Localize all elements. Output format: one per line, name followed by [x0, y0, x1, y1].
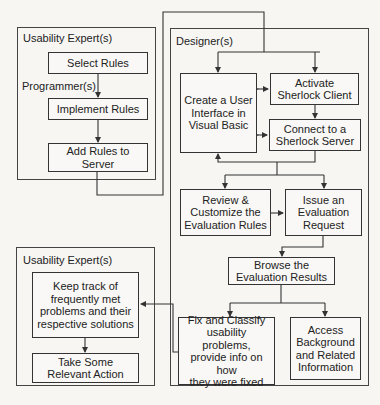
keep-track-box: Keep track of frequently met problems an… [32, 272, 139, 338]
browse-results-box: Browse the Evaluation Results [228, 257, 335, 285]
access-background-box: Access Background and Related Informatio… [290, 317, 361, 380]
add-rules-box: Add Rules to Server [48, 143, 148, 172]
implement-rules-box: Implement Rules [48, 98, 148, 120]
connect-server-box: Connect to a Sherlock Server [269, 119, 361, 151]
create-ui-box: Create a User Interface in Visual Basic [180, 73, 257, 153]
activate-client-box: Activate Sherlock Client [270, 73, 359, 105]
select-rules-box: Select Rules [48, 52, 148, 74]
issue-request-box: Issue an Evaluation Request [285, 189, 362, 236]
usability-expert-top-label: Usability Expert(s) [23, 32, 112, 44]
programmer-label: Programmer(s) [22, 80, 96, 92]
usability-expert-bottom-label: Usability Expert(s) [23, 254, 112, 266]
take-action-box: Take Some Relevant Action [32, 353, 139, 383]
designer-label: Designer(s) [176, 35, 233, 47]
review-rules-box: Review & Customize the Evaluation Rules [180, 189, 271, 236]
fix-classify-box: Fix and Classify usability problems, pro… [178, 317, 275, 385]
